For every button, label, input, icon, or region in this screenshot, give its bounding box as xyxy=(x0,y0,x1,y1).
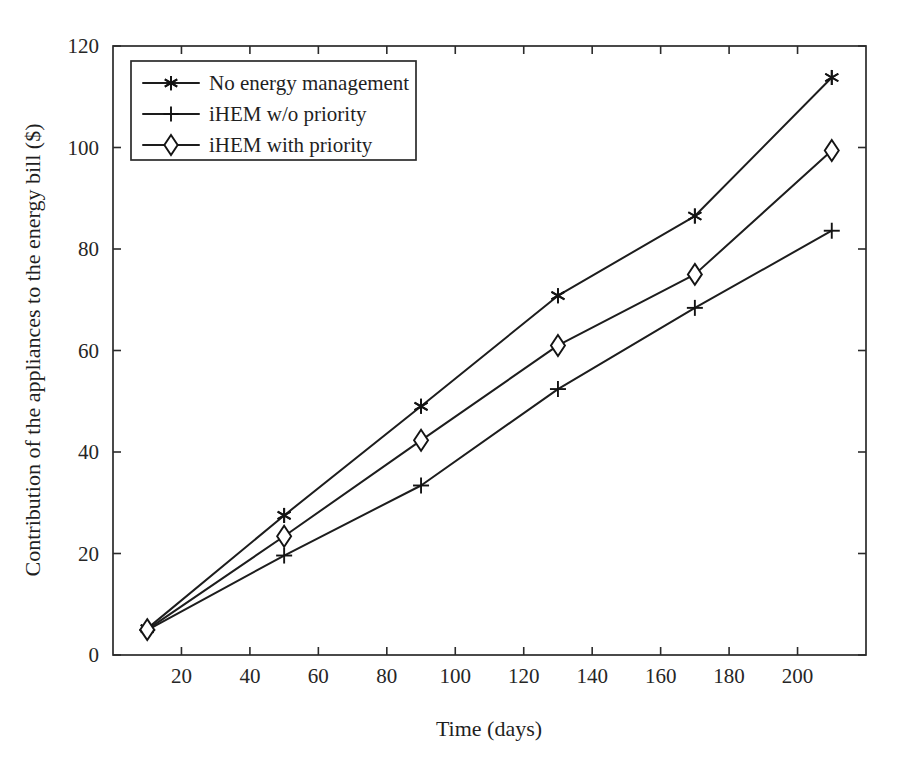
y-tick-label: 0 xyxy=(89,643,100,667)
x-tick-label: 100 xyxy=(440,664,472,688)
data-point-marker-plus xyxy=(550,381,566,397)
y-tick-label: 100 xyxy=(68,136,100,160)
data-series xyxy=(139,223,840,638)
x-axis-tick-labels: 20406080100120140160180200 xyxy=(171,664,813,688)
x-tick-label: 120 xyxy=(508,664,540,688)
data-point-marker-star-asterisk xyxy=(278,508,291,523)
data-series xyxy=(140,140,839,640)
x-tick-label: 60 xyxy=(308,664,329,688)
data-point-marker-star-asterisk xyxy=(415,399,428,414)
y-tick-label: 80 xyxy=(78,237,99,261)
data-point-marker-plus xyxy=(276,548,292,564)
x-tick-label: 200 xyxy=(782,664,814,688)
x-tick-label: 180 xyxy=(713,664,745,688)
x-tick-label: 80 xyxy=(376,664,397,688)
line-chart: 20406080100120140160180200 0204060801001… xyxy=(0,0,907,763)
x-tick-label: 20 xyxy=(171,664,192,688)
data-point-marker-plus xyxy=(824,223,840,239)
data-point-marker-diamond xyxy=(551,335,565,356)
y-tick-label: 40 xyxy=(78,440,99,464)
data-point-marker-star-asterisk xyxy=(551,288,564,303)
y-tick-label: 120 xyxy=(68,34,100,58)
data-point-marker-diamond xyxy=(688,264,702,285)
y-axis-tick-labels: 020406080100120 xyxy=(68,34,100,667)
data-point-marker-diamond xyxy=(277,526,291,547)
x-tick-label: 140 xyxy=(576,664,608,688)
legend-item-label: No energy management xyxy=(209,71,409,95)
series-line-2 xyxy=(147,151,832,630)
data-point-marker-diamond xyxy=(825,140,839,161)
chart-legend: No energy managementiHEM w/o priorityiHE… xyxy=(131,61,416,160)
data-point-marker-diamond xyxy=(414,430,428,451)
x-axis-title: Time (days) xyxy=(436,716,542,741)
data-point-marker-plus xyxy=(413,477,429,493)
x-tick-label: 160 xyxy=(645,664,677,688)
legend-item-label: iHEM w/o priority xyxy=(209,102,367,126)
y-tick-label: 60 xyxy=(78,339,99,363)
x-tick-label: 40 xyxy=(239,664,260,688)
legend-item-label: iHEM with priority xyxy=(209,133,373,157)
chart-figure: 20406080100120140160180200 0204060801001… xyxy=(0,0,907,763)
series-line-1 xyxy=(147,231,832,630)
data-point-marker-diamond xyxy=(140,619,154,640)
y-axis-title: Contribution of the appliances to the en… xyxy=(20,124,45,577)
y-tick-label: 20 xyxy=(78,542,99,566)
data-point-marker-plus xyxy=(687,300,703,316)
